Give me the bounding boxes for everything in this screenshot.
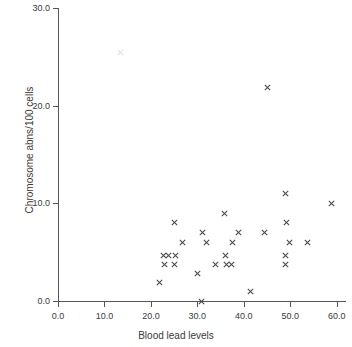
x-tick-mark (290, 302, 291, 307)
data-point-marker (286, 239, 293, 246)
y-tick-label: 0.0 (37, 297, 50, 306)
data-point-marker (229, 239, 236, 246)
data-point-marker (194, 270, 201, 277)
data-point-marker (171, 219, 178, 226)
x-tick-label: 40.0 (224, 312, 264, 321)
data-point-marker (261, 229, 268, 236)
x-tick-mark (337, 302, 338, 307)
x-tick-mark (151, 302, 152, 307)
data-point-marker (264, 84, 271, 91)
data-point-marker (247, 288, 254, 295)
data-point-marker (282, 252, 289, 259)
data-point-marker (282, 261, 289, 268)
data-point-marker (283, 219, 290, 226)
x-tick-label: 50.0 (270, 312, 310, 321)
scatter-plot-figure: 0.010.020.030.0 0.010.020.030.040.050.06… (0, 0, 352, 347)
x-axis-title: Blood lead levels (0, 330, 352, 342)
data-point-marker (171, 261, 178, 268)
data-point-marker (228, 261, 235, 268)
data-point-marker (222, 252, 229, 259)
y-axis-title: Chromosome abns/100 cells (24, 40, 36, 260)
x-tick-label: 20.0 (131, 312, 171, 321)
data-point-marker (304, 239, 311, 246)
x-tick-mark (58, 302, 59, 307)
x-tick-mark (244, 302, 245, 307)
x-tick-label: 10.0 (84, 312, 124, 321)
y-tick-label: 30.0 (32, 4, 50, 13)
x-tick-mark (104, 302, 105, 307)
x-tick-label: 30.0 (177, 312, 217, 321)
data-point-marker (328, 200, 335, 207)
data-point-marker (161, 261, 168, 268)
data-point-marker (212, 261, 219, 268)
plot-area (58, 8, 346, 301)
data-point-marker (235, 229, 242, 236)
data-point-marker (203, 239, 210, 246)
x-tick-label: 60.0 (317, 312, 352, 321)
data-point-marker (198, 298, 205, 305)
data-point-marker (199, 229, 206, 236)
x-tick-label: 0.0 (38, 312, 78, 321)
data-point-marker (221, 210, 228, 217)
data-point-marker (156, 279, 163, 286)
data-point-marker (179, 239, 186, 246)
data-point-marker (117, 49, 124, 56)
data-point-marker (172, 252, 179, 259)
data-point-marker (282, 190, 289, 197)
